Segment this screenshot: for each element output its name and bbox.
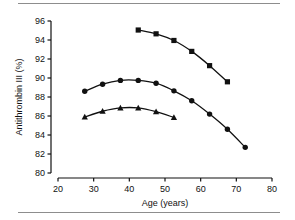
- data-point-marker: [100, 81, 105, 86]
- y-tick-label: 92: [35, 54, 45, 64]
- data-point-marker: [153, 81, 158, 86]
- data-series-lower-series: [82, 105, 177, 120]
- x-axis-title: Age (years): [142, 198, 189, 208]
- x-tick-label: 40: [124, 184, 134, 194]
- data-series-upper-series: [136, 27, 230, 84]
- data-point-marker: [225, 79, 230, 84]
- y-tick-label: 90: [35, 73, 45, 83]
- data-point-marker: [189, 98, 194, 103]
- data-point-marker: [243, 145, 248, 150]
- y-tick-label: 96: [35, 16, 45, 26]
- x-tick-label: 30: [89, 184, 99, 194]
- data-point-marker: [207, 63, 212, 68]
- y-tick-label: 94: [35, 35, 45, 45]
- data-point-marker: [225, 127, 230, 132]
- y-tick-label: 88: [35, 92, 45, 102]
- data-point-marker: [171, 88, 176, 93]
- x-tick-label: 70: [231, 184, 241, 194]
- series-line: [85, 80, 246, 147]
- top-divider-rule: [18, 3, 280, 4]
- data-point-marker: [153, 31, 158, 36]
- series-line: [85, 107, 174, 117]
- x-tick-label: 50: [160, 184, 170, 194]
- chart-figure: 808284868890929496 20304050607080 Antith…: [0, 0, 295, 220]
- y-axis-title: Antithrombin III (%): [14, 58, 24, 135]
- data-point-marker: [82, 89, 87, 94]
- bottom-divider-rule: [18, 212, 280, 213]
- data-point-marker: [189, 49, 194, 54]
- y-tick-label: 82: [35, 149, 45, 159]
- x-tick-label: 80: [267, 184, 277, 194]
- y-tick-label: 80: [35, 168, 45, 178]
- data-point-marker: [171, 38, 176, 43]
- x-tick-label: 60: [196, 184, 206, 194]
- x-axis: 20304050607080: [53, 178, 277, 194]
- y-tick-label: 84: [35, 130, 45, 140]
- data-point-marker: [136, 27, 141, 32]
- data-point-marker: [207, 111, 212, 116]
- y-tick-label: 86: [35, 111, 45, 121]
- x-tick-label: 20: [53, 184, 63, 194]
- data-series-group: [82, 27, 248, 150]
- y-axis: 808284868890929496: [35, 16, 51, 178]
- series-line: [138, 30, 227, 82]
- line-chart-plot: 808284868890929496 20304050607080 Antith…: [0, 0, 295, 220]
- data-point-marker: [136, 78, 141, 83]
- data-point-marker: [118, 78, 123, 83]
